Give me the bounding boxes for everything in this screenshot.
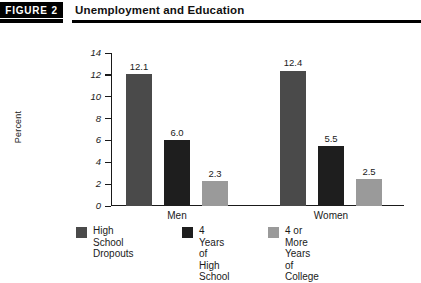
bar-value-label: 5.5 [311, 134, 351, 144]
y-tick-label: 6 [79, 135, 101, 145]
bar-value-label: 12.1 [119, 62, 159, 72]
bar-chart: Percent 02468101214 12.16.02.312.45.52.5… [0, 26, 421, 265]
bar-value-label: 6.0 [157, 128, 197, 138]
bar [126, 74, 152, 206]
legend-label: 4 Years of High School [199, 225, 230, 283]
bar-value-label: 12.4 [273, 58, 313, 68]
figure-title: Unemployment and Education [75, 2, 244, 18]
legend-label: High School Dropouts [93, 225, 134, 260]
bar [164, 140, 190, 206]
x-axis-group-label: Women [296, 210, 366, 221]
legend-swatch [182, 227, 193, 238]
figure-number-badge: FIGURE 2 [0, 2, 63, 18]
bar [280, 71, 306, 207]
header-rule-left [0, 19, 63, 23]
bar-value-label: 2.3 [195, 169, 235, 179]
bar-value-label: 2.5 [349, 167, 389, 177]
y-tick-mark [105, 53, 111, 54]
y-tick-label: 12 [79, 70, 101, 80]
y-tick-label: 4 [79, 157, 101, 167]
y-axis-label: Percent [13, 97, 23, 157]
y-tick-mark [105, 184, 111, 185]
bar [202, 181, 228, 206]
y-tick-mark [105, 96, 111, 97]
y-tick-mark [105, 206, 111, 207]
y-tick-mark [105, 118, 111, 119]
y-tick-label: 0 [79, 201, 101, 211]
y-tick-label: 10 [79, 92, 101, 102]
chart-legend: High School Dropouts4 Years of High Scho… [0, 225, 421, 265]
legend-swatch [76, 227, 87, 238]
legend-label: 4 or More Years of College [285, 225, 319, 283]
legend-swatch [268, 227, 279, 238]
figure-header: FIGURE 2 Unemployment and Education [0, 0, 421, 26]
plot-area: 12.16.02.312.45.52.5 [112, 53, 404, 206]
y-tick-mark [105, 162, 111, 163]
y-tick-mark [105, 140, 111, 141]
y-tick-label: 14 [79, 48, 101, 58]
x-axis-group-label: Men [142, 210, 212, 221]
bar [318, 146, 344, 206]
y-tick-label: 8 [79, 114, 101, 124]
header-rule-right [72, 20, 421, 23]
y-tick-mark [105, 74, 111, 75]
bar [356, 179, 382, 206]
y-tick-label: 2 [79, 179, 101, 189]
